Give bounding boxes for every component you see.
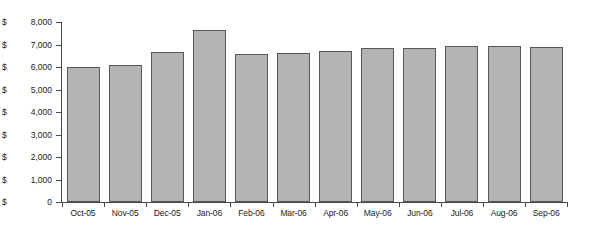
y-axis-label-currency: $ xyxy=(2,62,7,72)
bar xyxy=(67,67,100,202)
y-axis-label: $4,000 xyxy=(0,107,52,117)
x-axis-label: Jun-06 xyxy=(399,208,441,218)
bar xyxy=(319,51,352,202)
y-axis-label-currency: $ xyxy=(2,197,7,207)
bar-chart: $8,000$7,000$6,000$5,000$4,000$3,000$2,0… xyxy=(0,0,589,225)
x-axis-label: Mar-06 xyxy=(273,208,315,218)
x-axis-tick xyxy=(315,202,316,207)
y-axis-label: $6,000 xyxy=(0,62,52,72)
y-axis-label-value: 4,000 xyxy=(31,107,52,117)
x-axis-tick xyxy=(146,202,147,207)
bar xyxy=(403,48,436,202)
y-axis-label-value: 5,000 xyxy=(31,85,52,95)
bar xyxy=(530,47,563,202)
x-axis-tick xyxy=(62,202,63,207)
bar xyxy=(488,46,521,202)
x-axis-label: Oct-05 xyxy=(62,208,104,218)
bar xyxy=(193,30,226,202)
y-axis-label-currency: $ xyxy=(2,130,7,140)
y-axis-label-currency: $ xyxy=(2,152,7,162)
x-axis-tick xyxy=(104,202,105,207)
y-axis-label: $5,000 xyxy=(0,85,52,95)
x-axis-tick xyxy=(525,202,526,207)
x-axis-tick xyxy=(567,202,568,207)
y-axis-label: $2,000 xyxy=(0,152,52,162)
y-axis-label-currency: $ xyxy=(2,107,7,117)
bar xyxy=(445,46,478,202)
bar xyxy=(109,65,142,202)
x-axis-tick xyxy=(230,202,231,207)
y-axis-label: $3,000 xyxy=(0,130,52,140)
y-axis-label: $7,000 xyxy=(0,40,52,50)
y-axis-label-value: 1,000 xyxy=(31,175,52,185)
y-axis-label-value: 3,000 xyxy=(31,130,52,140)
y-axis-label-value: 6,000 xyxy=(31,62,52,72)
x-axis-tick xyxy=(441,202,442,207)
x-axis-label: Apr-06 xyxy=(315,208,357,218)
x-axis-label: May-06 xyxy=(357,208,399,218)
x-axis-label: Dec-05 xyxy=(146,208,188,218)
x-axis-label: Nov-05 xyxy=(104,208,146,218)
x-axis-tick xyxy=(399,202,400,207)
x-axis-label: Aug-06 xyxy=(483,208,525,218)
x-axis-label: Jan-06 xyxy=(188,208,230,218)
x-axis-label: Sep-06 xyxy=(525,208,567,218)
y-axis-label: $0 xyxy=(0,197,52,207)
x-axis-tick xyxy=(357,202,358,207)
y-axis-label-currency: $ xyxy=(2,17,7,27)
bar xyxy=(151,52,184,202)
y-axis-label-value: 2,000 xyxy=(31,152,52,162)
y-axis-label-value: 8,000 xyxy=(31,17,52,27)
x-axis-tick xyxy=(188,202,189,207)
y-axis-label-value: 7,000 xyxy=(31,40,52,50)
bar xyxy=(361,48,394,202)
y-axis-label-currency: $ xyxy=(2,40,7,50)
x-axis-tick xyxy=(273,202,274,207)
bar xyxy=(235,54,268,203)
x-axis-label: Feb-06 xyxy=(230,208,272,218)
y-axis-label-value: 0 xyxy=(47,197,52,207)
bar xyxy=(277,53,310,202)
x-axis-tick xyxy=(483,202,484,207)
x-axis-label: Jul-06 xyxy=(441,208,483,218)
y-axis-label: $8,000 xyxy=(0,17,52,27)
y-axis-label: $1,000 xyxy=(0,175,52,185)
plot-area xyxy=(62,22,567,202)
y-axis-label-currency: $ xyxy=(2,175,7,185)
y-axis-label-currency: $ xyxy=(2,85,7,95)
